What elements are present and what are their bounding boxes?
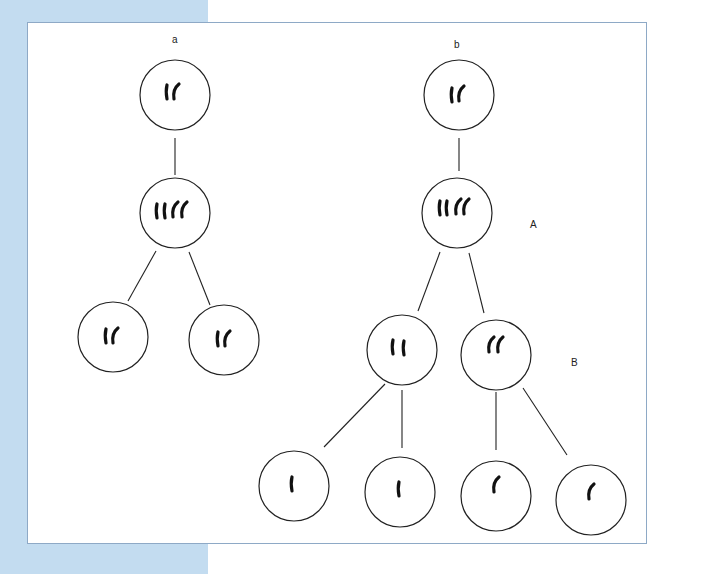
cell-b-gamete-3 xyxy=(461,461,531,531)
cell-division-diagram: a b A B xyxy=(0,0,705,574)
cell-a-replicated xyxy=(140,178,210,248)
cell-b-meiosis1-daughter-2 xyxy=(461,320,531,390)
cell-b-meiosis1-daughter-1 xyxy=(367,315,437,385)
cell-b-replicated xyxy=(422,178,492,248)
panel-label-b: b xyxy=(454,39,460,50)
cell-b-gamete-1 xyxy=(259,451,329,521)
cell-a-parent xyxy=(140,60,210,130)
panel-label-a: a xyxy=(172,34,178,45)
cell-b-parent xyxy=(424,60,494,130)
cell-a-daughter-1 xyxy=(78,302,148,372)
stage-label-B: B xyxy=(571,357,578,368)
stage-label-A: A xyxy=(530,219,537,230)
cell-b-gamete-2 xyxy=(365,457,435,527)
cell-a-daughter-2 xyxy=(189,305,259,375)
cell-b-gamete-4 xyxy=(556,465,626,535)
